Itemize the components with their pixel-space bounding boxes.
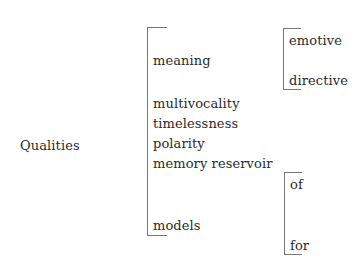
quality-memory-reservoir: memory reservoir [153, 156, 273, 172]
quality-models: models [153, 218, 201, 234]
qualities-bracket-top-tick [147, 27, 167, 28]
meaning-directive: directive [289, 73, 348, 89]
quality-meaning: meaning [153, 53, 211, 69]
meaning-bracket-bottom-tick [283, 89, 301, 90]
models-of: of [290, 177, 303, 193]
meaning-bracket [283, 28, 284, 90]
qualities-bracket-bottom-tick [147, 235, 167, 236]
quality-timelessness: timelessness [153, 116, 238, 132]
root-label: Qualities [20, 138, 80, 154]
models-for: for [290, 238, 309, 254]
models-bracket-bottom-tick [284, 254, 302, 255]
meaning-emotive: emotive [289, 33, 342, 49]
models-bracket [284, 172, 285, 255]
meaning-bracket-top-tick [283, 28, 301, 29]
quality-multivocality: multivocality [153, 96, 240, 112]
qualities-bracket [147, 27, 148, 236]
models-bracket-top-tick [284, 172, 302, 173]
quality-polarity: polarity [153, 136, 205, 152]
